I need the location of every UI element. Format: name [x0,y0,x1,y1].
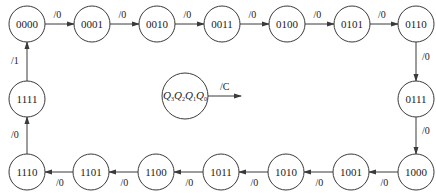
state-label: 0101 [341,18,363,30]
state-0100: 0100 [269,6,305,42]
legend-state-vars: Q3Q2Q1Q0 [163,89,207,102]
state-1000: 1000 [398,154,434,190]
state-1011: 1011 [203,154,239,190]
transition-1001-1010: /0 [304,172,333,188]
transition-0011-0100: /0 [240,9,269,24]
state-1101: 1101 [73,154,109,190]
transition-label: /0 [314,9,322,20]
transition-label: /0 [249,9,257,20]
state-label: 1001 [340,166,362,178]
transition-label: /0 [316,177,324,188]
state-label: 0111 [405,93,426,105]
transition-label: /0 [56,177,64,188]
transition-label: /0 [11,129,19,140]
transition-label: /1 [11,55,19,66]
transition-label: /0 [121,177,129,188]
state-0101: 0101 [334,6,370,42]
transition-label: /0 [184,9,192,20]
state-label: 0011 [211,18,233,30]
transition-0100-0101: /0 [305,9,334,24]
transition-1011-1100: /0 [174,172,203,188]
state-1111: 1111 [9,81,45,117]
transition-0000-0001: /0 [45,9,74,24]
state-0111: 0111 [398,81,434,117]
state-0110: 0110 [398,6,434,42]
state-label: 1000 [405,166,428,178]
state-label: 0110 [405,18,427,30]
state-label: 1111 [17,93,38,105]
state-label: 0000 [16,18,39,30]
state-1001: 1001 [333,154,369,190]
transition-label: /0 [186,177,194,188]
state-label: 1011 [210,166,232,178]
transition-label: /0 [378,9,386,20]
legend: Q3Q2Q1Q0 /C [162,73,241,119]
transition-0010-0011: /0 [175,9,204,24]
transition-label: /0 [422,125,430,136]
transition-0110-0111: /0 [416,42,430,81]
transition-1000-1001: /0 [369,172,398,188]
transition-0101-0110: /0 [370,9,398,24]
state-0001: 0001 [74,6,110,42]
state-label: 0100 [276,18,299,30]
transition-1010-1011: /0 [239,172,268,188]
transition-0001-0010: /0 [110,9,139,24]
state-0000: 0000 [9,6,45,42]
state-label: 1010 [275,166,298,178]
transition-0111-1000: /0 [416,117,430,154]
transition-1110-1111: /0 [11,117,27,154]
state-label: 1101 [80,166,102,178]
state-1010: 1010 [268,154,304,190]
transition-label: /0 [54,9,62,20]
state-diagram: /0/0/0/0/0/0/0/0/0/0/0/0/0/0/0/1 0000000… [0,0,436,193]
state-label: 0001 [81,18,103,30]
state-0011: 0011 [204,6,240,42]
legend-output-label: /C [220,81,230,92]
state-label: 1110 [16,166,38,178]
state-1110: 1110 [9,154,45,190]
states: 0000000100100011010001010110011110001001… [9,6,434,190]
transition-label: /0 [381,177,389,188]
transition-label: /0 [119,9,127,20]
state-0010: 0010 [139,6,175,42]
transition-1100-1101: /0 [109,172,138,188]
transition-label: /0 [422,51,430,62]
transition-1101-1110: /0 [45,172,73,188]
transition-1111-0000: /1 [11,42,27,81]
state-label: 0010 [146,18,169,30]
state-1100: 1100 [138,154,174,190]
transition-label: /0 [251,177,259,188]
state-label: 1100 [145,166,167,178]
